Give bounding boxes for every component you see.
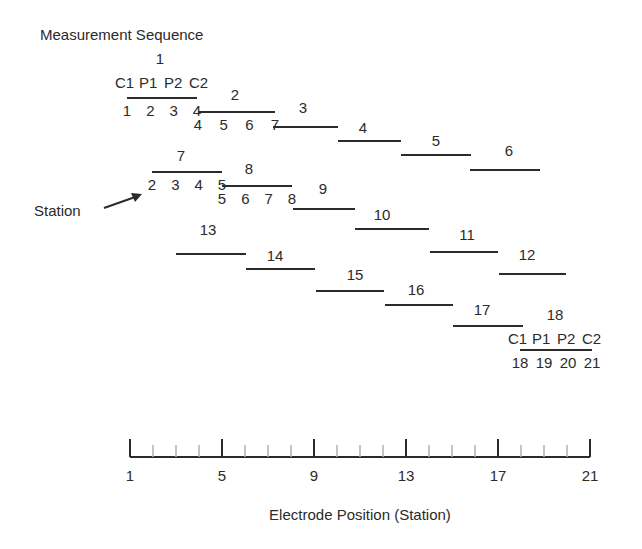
measurement-number: 5: [432, 132, 440, 149]
measurement-11: 11: [430, 226, 498, 252]
electrode-p2: P2: [164, 74, 182, 91]
station-number: 2: [146, 102, 154, 119]
measurement-number: 9: [319, 180, 327, 197]
station-number: 21: [584, 354, 601, 371]
station-number: 20: [560, 354, 577, 371]
measurement-number: 7: [177, 147, 185, 164]
station-annotation: Station: [34, 193, 142, 219]
station-number: 3: [171, 176, 179, 193]
station-number: 5: [219, 116, 227, 133]
arrow-line: [104, 196, 138, 208]
electrode-c2: C2: [582, 330, 601, 347]
station-number: 3: [169, 102, 177, 119]
electrode-c1: C1: [508, 330, 527, 347]
measurement-2: 24567: [194, 86, 279, 133]
measurement-16: 16: [385, 281, 453, 305]
station-number: 18: [512, 354, 529, 371]
station-number: 5: [218, 190, 226, 207]
measurement-12: 12: [499, 246, 566, 274]
measurement-number: 3: [299, 99, 307, 116]
tick-label: 5: [218, 467, 226, 484]
electrode-c2: C2: [189, 74, 208, 91]
measurement-number: 6: [505, 142, 513, 159]
station-number: 4: [194, 116, 202, 133]
station-number: 7: [264, 190, 272, 207]
measurement-segments: 1123424567345672345856789101112131415161…: [123, 50, 601, 371]
measurement-5: 5: [401, 132, 471, 155]
measurement-number: 18: [547, 306, 564, 323]
measurement-6: 6: [470, 142, 540, 170]
axis-title: Electrode Position (Station): [269, 506, 451, 523]
measurement-4: 4: [338, 119, 401, 141]
electrode-p1: P1: [139, 74, 157, 91]
measurement-number: 17: [474, 301, 491, 318]
measurement-10: 10: [355, 206, 429, 229]
tick-label: 17: [490, 467, 507, 484]
station-number: 6: [245, 116, 253, 133]
measurement-number: 1: [156, 50, 164, 67]
station-number: 1: [123, 102, 131, 119]
station-number: 6: [241, 190, 249, 207]
measurement-15: 15: [316, 266, 384, 291]
station-number: 19: [536, 354, 553, 371]
measurement-number: 2: [231, 86, 239, 103]
tick-label: 13: [398, 467, 415, 484]
measurement-number: 13: [200, 221, 217, 238]
measurement-number: 10: [374, 206, 391, 223]
station-number: 4: [194, 176, 202, 193]
measurement-8: 85678: [218, 160, 296, 207]
electrode-labels-top: C1 P1 P2 C2: [115, 74, 208, 91]
electrode-c1: C1: [115, 74, 134, 91]
measurement-17: 17: [453, 301, 523, 326]
measurement-number: 8: [245, 160, 253, 177]
measurement-7: 72345: [148, 147, 226, 193]
tick-label: 1: [126, 467, 134, 484]
measurement-number: 16: [408, 281, 425, 298]
measurement-number: 15: [347, 266, 364, 283]
station-label: Station: [34, 202, 81, 219]
station-number: 7: [271, 116, 279, 133]
station-axis: 159131721: [126, 439, 599, 484]
measurement-3: 3: [273, 99, 338, 127]
station-number: 2: [148, 176, 156, 193]
electrode-p2: P2: [557, 330, 575, 347]
measurement-13: 13: [176, 221, 246, 254]
electrode-labels-bottom: C1 P1 P2 C2: [508, 330, 601, 347]
measurement-number: 4: [359, 119, 367, 136]
electrode-p1: P1: [532, 330, 550, 347]
measurement-diagram: 1123424567345672345856789101112131415161…: [0, 0, 642, 549]
measurement-number: 12: [519, 246, 536, 263]
measurement-number: 14: [267, 247, 284, 264]
station-number: 8: [288, 190, 296, 207]
measurement-14: 14: [246, 247, 315, 269]
tick-label: 21: [582, 467, 599, 484]
tick-label: 9: [310, 467, 318, 484]
measurement-number: 11: [459, 226, 475, 243]
measurement-9: 9: [293, 180, 355, 209]
